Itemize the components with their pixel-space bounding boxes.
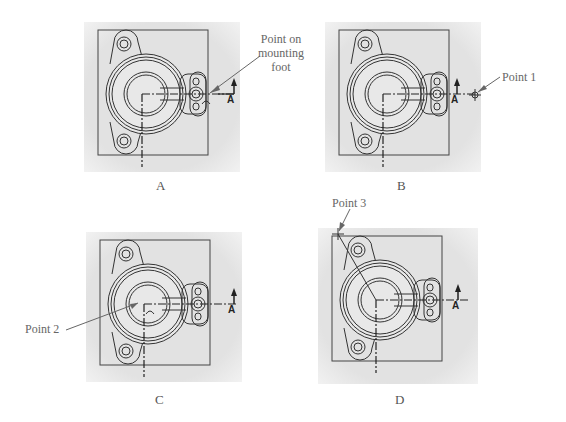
- leader-line-d: [0, 0, 566, 422]
- callout-point-3: Point 3: [332, 196, 366, 210]
- caption-d: D: [395, 392, 404, 408]
